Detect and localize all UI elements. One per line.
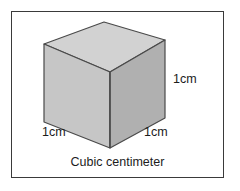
dimension-label-bottom-left: 1cm <box>42 125 66 139</box>
figure-caption: Cubic centimeter <box>11 155 224 169</box>
dimension-label-right: 1cm <box>173 72 197 86</box>
dimension-label-bottom-right: 1cm <box>144 125 168 139</box>
figure-root: 1cm 1cm 1cm Cubic centimeter <box>0 0 240 191</box>
